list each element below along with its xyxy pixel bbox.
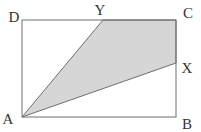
geometry-figure: D Y C X A B	[0, 0, 201, 132]
vertex-label-a: A	[3, 111, 14, 127]
vertex-label-c: C	[183, 5, 193, 21]
point-label-y: Y	[95, 2, 106, 18]
shaded-region-AYCX	[22, 20, 176, 117]
vertex-label-b: B	[182, 116, 192, 132]
geometry-diagram: D Y C X A B	[0, 0, 201, 132]
point-label-x: X	[182, 60, 193, 76]
vertex-label-d: D	[9, 9, 20, 25]
